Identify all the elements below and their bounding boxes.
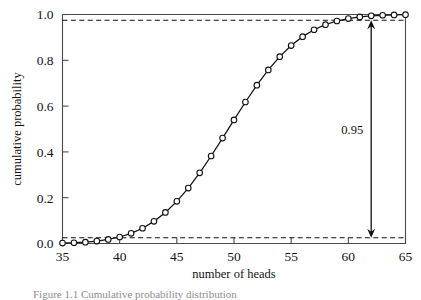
x-axis-tick-label: 40	[113, 249, 127, 264]
data-point-marker	[117, 234, 123, 240]
data-point-marker	[71, 240, 77, 246]
data-point-marker	[357, 14, 363, 20]
data-point-marker	[208, 153, 214, 159]
data-point-marker	[323, 22, 329, 28]
data-point-marker	[391, 12, 397, 18]
data-point-marker	[277, 54, 283, 60]
data-point-marker	[334, 18, 340, 24]
data-point-marker	[231, 117, 237, 123]
data-point-marker	[346, 16, 352, 22]
x-axis-tick-label: 35	[56, 249, 70, 264]
data-point-marker	[163, 210, 169, 216]
data-point-marker	[105, 237, 111, 243]
x-axis-tick-label: 50	[227, 249, 241, 264]
data-point-marker	[368, 13, 374, 19]
data-point-marker	[151, 219, 157, 225]
data-point-marker	[300, 34, 306, 40]
x-axis-tick-label: 55	[284, 249, 298, 264]
data-point-marker	[288, 43, 294, 49]
figure-container: 0.00.20.40.60.81.0354045505560650.95numb…	[0, 0, 421, 300]
data-point-marker	[60, 240, 66, 246]
data-point-marker	[311, 27, 317, 33]
interval-annotation-label: 0.95	[341, 123, 363, 137]
data-point-marker	[174, 199, 180, 205]
data-point-marker	[243, 99, 249, 105]
y-axis-tick-label: 0.6	[37, 99, 54, 114]
y-axis-title: cumulative probability	[10, 71, 24, 185]
data-point-marker	[185, 185, 191, 191]
x-axis-tick-label: 65	[399, 249, 413, 264]
cumulative-probability-chart: 0.00.20.40.60.81.0354045505560650.95numb…	[0, 0, 421, 300]
data-point-marker	[128, 231, 134, 237]
data-point-marker	[197, 170, 203, 176]
y-axis-tick-label: 0.2	[37, 191, 54, 206]
y-axis-tick-label: 0.8	[37, 53, 54, 68]
x-axis-tick-label: 60	[342, 249, 356, 264]
data-point-marker	[380, 12, 386, 18]
y-axis-tick-label: 1.0	[37, 7, 54, 22]
figure-caption: Figure 1.1 Cumulative probability distri…	[33, 288, 413, 300]
y-axis-tick-label: 0.4	[37, 145, 54, 160]
x-axis-tick-label: 45	[170, 249, 184, 264]
data-point-marker	[266, 67, 272, 73]
data-point-marker	[94, 238, 100, 244]
data-point-marker	[83, 239, 89, 245]
data-point-marker	[254, 82, 260, 88]
data-point-marker	[140, 225, 146, 231]
data-point-marker	[220, 135, 226, 141]
y-axis-tick-label: 0.0	[37, 236, 54, 251]
data-point-marker	[403, 12, 409, 18]
x-axis-title: number of heads	[192, 267, 275, 281]
